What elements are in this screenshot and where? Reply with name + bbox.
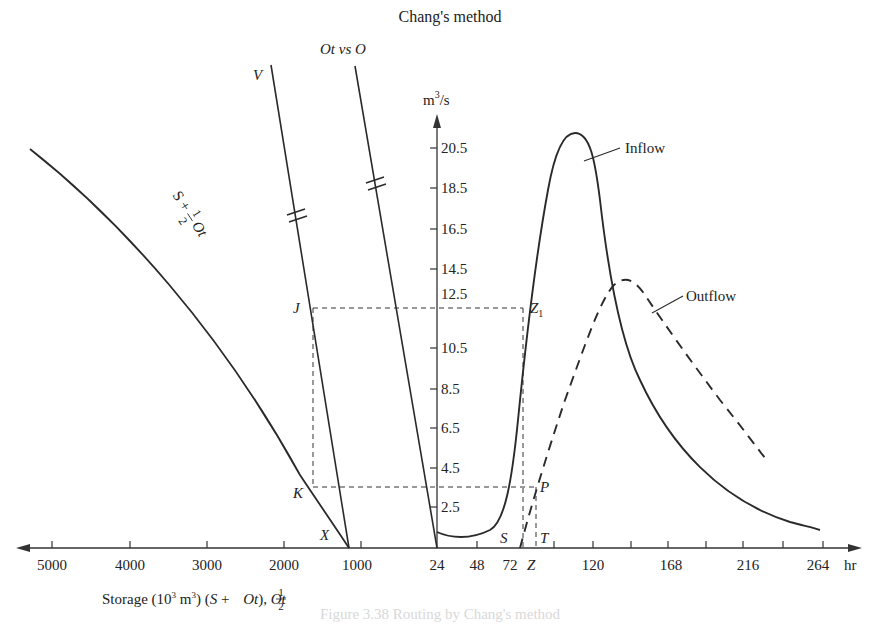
svg-text:12.5: 12.5 — [441, 286, 467, 302]
x-right-ticks — [477, 541, 823, 548]
y-axis-arrow — [433, 114, 441, 128]
x-right-unit: hr — [844, 557, 857, 573]
inflow-leader — [584, 148, 620, 161]
svg-text:4000: 4000 — [115, 557, 145, 573]
storage-curve-label: S + 1 2 Ot — [162, 185, 215, 245]
svg-text:20.5: 20.5 — [441, 140, 467, 156]
x-left-ticks — [52, 541, 361, 548]
svg-text:120: 120 — [582, 557, 605, 573]
x-right-tick-labels: 24 48 72 120 168 216 264 — [430, 557, 830, 573]
svg-text:10.5: 10.5 — [441, 340, 467, 356]
chang-method-chart: Chang's method m3/s 20.5 18.5 16.5 14.5 … — [0, 0, 880, 628]
x-axis-right-arrow — [848, 544, 862, 552]
label-X: X — [319, 527, 330, 543]
label-Z: Z — [527, 557, 536, 573]
svg-text:216: 216 — [737, 557, 760, 573]
svg-text:3000: 3000 — [192, 557, 222, 573]
svg-text:14.5: 14.5 — [441, 261, 467, 277]
svg-text:264: 264 — [807, 557, 830, 573]
label-P: P — [539, 479, 549, 495]
svg-text:18.5: 18.5 — [441, 180, 467, 196]
svg-text:Ot: Ot — [189, 218, 211, 240]
inflow-curve — [437, 133, 820, 537]
svg-text:4.5: 4.5 — [441, 460, 460, 476]
label-V: V — [253, 67, 264, 83]
outflow-curve — [520, 280, 765, 548]
chart-title: Chang's method — [399, 8, 502, 26]
svg-text:8.5: 8.5 — [441, 381, 460, 397]
label-ot-vs-o: Ot vs O — [320, 41, 366, 57]
svg-text:168: 168 — [660, 557, 683, 573]
figure-caption: Figure 3.38 Routing by Chang's method — [0, 606, 880, 623]
y-ticks — [430, 148, 437, 507]
svg-text:6.5: 6.5 — [441, 420, 460, 436]
svg-text:1000: 1000 — [342, 557, 372, 573]
label-T: T — [540, 530, 550, 546]
label-J: J — [293, 300, 301, 316]
label-Z1: Z1 — [530, 300, 543, 319]
label-K: K — [292, 485, 304, 501]
x-axis-left-arrow — [16, 544, 30, 552]
label-outflow: Outflow — [686, 288, 736, 304]
svg-text:2: 2 — [176, 215, 191, 228]
svg-text:S +: S + — [169, 188, 194, 214]
y-axis-unit: m3/s — [423, 89, 450, 108]
label-inflow: Inflow — [625, 140, 665, 156]
ot-vs-o-break-marker — [366, 177, 386, 190]
svg-text:1: 1 — [278, 586, 284, 598]
svg-text:24: 24 — [430, 557, 446, 573]
svg-text:5000: 5000 — [37, 557, 67, 573]
V-line — [271, 65, 349, 548]
svg-text:72: 72 — [503, 557, 518, 573]
V-line-break-marker — [287, 209, 307, 222]
svg-text:48: 48 — [470, 557, 485, 573]
svg-text:16.5: 16.5 — [441, 221, 467, 237]
y-tick-labels: 20.5 18.5 16.5 14.5 12.5 10.5 8.5 6.5 4.… — [441, 140, 467, 515]
label-S: S — [500, 530, 508, 546]
svg-text:2000: 2000 — [269, 557, 299, 573]
svg-text:2.5: 2.5 — [441, 499, 460, 515]
x-left-tick-labels: 5000 4000 3000 2000 1000 — [37, 557, 372, 573]
ot-vs-o-line — [355, 66, 437, 548]
outflow-leader — [652, 296, 683, 313]
